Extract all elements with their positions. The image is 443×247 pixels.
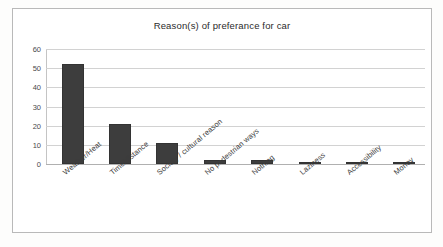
y-axis-tick-label: 0 bbox=[37, 160, 41, 169]
gridline bbox=[46, 107, 425, 108]
gridline bbox=[46, 126, 425, 127]
gridline bbox=[46, 164, 425, 165]
gridline bbox=[46, 87, 425, 88]
chart-figure: Reason(s) of preferance for car 01020304… bbox=[0, 0, 443, 247]
y-axis-tick-label: 60 bbox=[33, 45, 41, 54]
y-axis-tick-label: 40 bbox=[33, 83, 41, 92]
chart-frame: Reason(s) of preferance for car 01020304… bbox=[12, 8, 432, 233]
y-axis-tick-label: 10 bbox=[33, 140, 41, 149]
y-axis-tick-label: 30 bbox=[33, 102, 41, 111]
y-axis-tick-label: 50 bbox=[33, 64, 41, 73]
y-axis-tick-label: 20 bbox=[33, 121, 41, 130]
chart-title: Reason(s) of preferance for car bbox=[13, 20, 431, 31]
bar bbox=[62, 64, 84, 164]
gridline bbox=[46, 49, 425, 50]
gridline bbox=[46, 68, 425, 69]
